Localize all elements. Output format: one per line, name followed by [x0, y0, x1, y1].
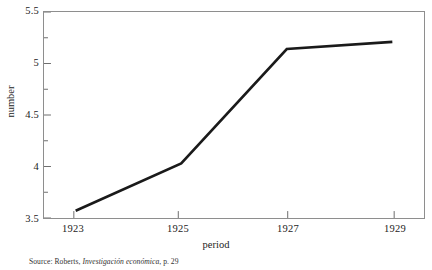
y-tick-label-5: 5 [34, 58, 39, 69]
plot-svg [44, 12, 424, 218]
plot-area [43, 11, 425, 219]
x-axis-tick-labels: 1923 1925 1927 1929 [0, 224, 432, 238]
x-axis-title: period [0, 239, 432, 250]
source-caption-title: Investigación económica [82, 257, 159, 266]
y-tick-label-5.5: 5.5 [25, 6, 39, 17]
source-caption: Source: Roberts, Investigación económica… [29, 257, 179, 266]
x-tick-label-1925: 1925 [146, 224, 210, 235]
source-caption-prefix: Source: Roberts, [29, 257, 82, 266]
y-tick-label-3.5: 3.5 [25, 214, 39, 225]
figure-line-chart: 5.5 5 4.5 4 3.5 number [0, 0, 432, 270]
data-line-series-number [76, 42, 393, 211]
x-tick-label-1923: 1923 [41, 224, 105, 235]
x-axis-ticks [74, 211, 394, 218]
y-axis-title: number [5, 72, 16, 132]
y-axis-ticks [44, 12, 51, 218]
y-tick-label-4: 4 [34, 162, 39, 173]
x-tick-label-1929: 1929 [363, 224, 427, 235]
y-tick-label-4.5: 4.5 [25, 110, 39, 121]
x-tick-label-1927: 1927 [256, 224, 320, 235]
source-caption-suffix: , p. 29 [159, 257, 178, 266]
